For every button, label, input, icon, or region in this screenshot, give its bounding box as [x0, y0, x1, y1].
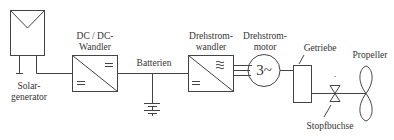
propeller-label: Propeller	[346, 50, 394, 61]
label-line: DC / DC-	[66, 31, 124, 42]
gearbox-icon	[294, 55, 312, 103]
stern-tube-label: Stopfbuchse	[300, 121, 360, 132]
drive-train-diagram: Solar- generator DC / DC- Wandler Batter…	[0, 0, 394, 140]
label-line: Drehstrom-	[180, 31, 242, 42]
dc-dc-converter-icon	[73, 56, 118, 92]
dc-dc-converter-label: DC / DC- Wandler	[66, 31, 124, 53]
stern-tube-seal-icon	[324, 76, 340, 117]
solar-panel-icon	[11, 11, 45, 74]
label-line: wandler	[180, 42, 242, 53]
inverter-label: Drehstrom- wandler	[180, 31, 242, 53]
motor-symbol: 3~	[248, 62, 280, 79]
battery-icon	[144, 74, 160, 117]
label-line: Solar-	[2, 81, 56, 92]
motor-label: Drehstrom- motor	[234, 31, 296, 53]
battery-label: Batterien	[126, 58, 182, 69]
inverter-icon	[189, 56, 234, 92]
solar-generator-label: Solar- generator	[2, 81, 56, 103]
diagram-canvas	[0, 0, 394, 140]
label-line: Wandler	[66, 42, 124, 53]
gearbox-label: Getriebe	[298, 43, 342, 54]
label-line: motor	[234, 42, 296, 53]
label-line: Drehstrom-	[234, 31, 296, 42]
label-line: generator	[2, 92, 56, 103]
